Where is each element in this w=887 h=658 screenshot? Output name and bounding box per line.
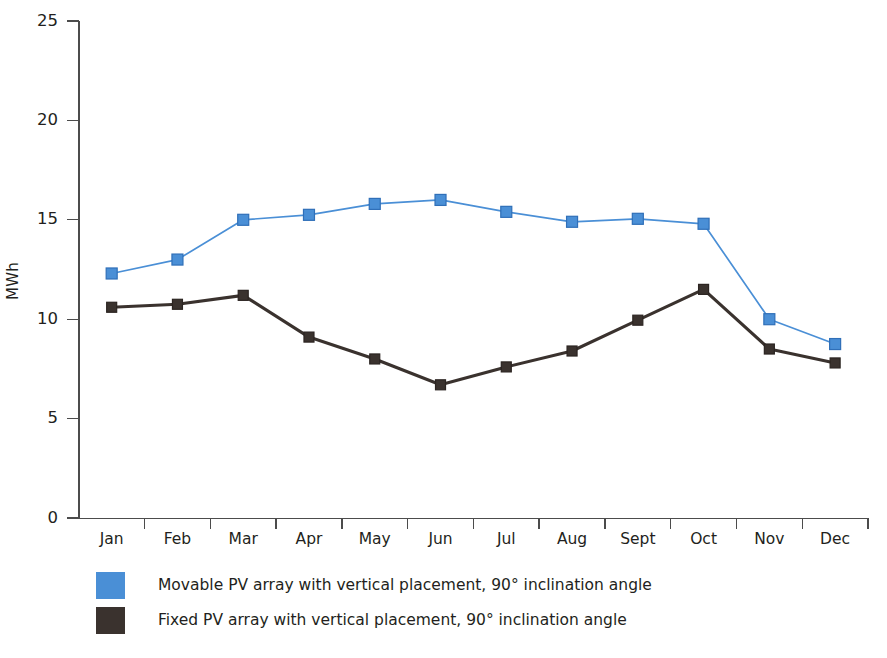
data-point-movable-jul (501, 206, 512, 217)
x-tick-label-jul: Jul (497, 532, 516, 548)
legend-label-movable: Movable PV array with vertical placement… (158, 578, 652, 594)
y-tick-label-15: 15 (12, 211, 58, 228)
series-line-movable (112, 200, 835, 344)
data-point-movable-sept (632, 213, 643, 224)
legend-swatch-fixed-icon (96, 607, 125, 634)
x-tick-boundary-9 (670, 518, 671, 529)
data-point-fixed-apr (304, 332, 314, 342)
x-tick-boundary-10 (736, 518, 737, 529)
x-tick-boundary-8 (604, 518, 605, 529)
x-tick-label-apr: Apr (296, 532, 323, 548)
legend-label-fixed: Fixed PV array with vertical placement, … (158, 613, 627, 629)
data-point-fixed-jan (107, 302, 117, 312)
x-tick-label-oct: Oct (690, 532, 717, 548)
data-point-movable-feb (172, 254, 183, 265)
x-tick-boundary-11 (802, 518, 803, 529)
x-tick-label-may: May (359, 532, 391, 548)
data-point-movable-apr (303, 209, 314, 220)
x-tick-label-nov: Nov (754, 532, 784, 548)
data-point-fixed-sept (633, 315, 643, 325)
data-point-fixed-oct (699, 284, 709, 294)
data-point-movable-dec (830, 339, 841, 350)
series-plot-layer (0, 0, 887, 658)
x-tick-label-sept: Sept (620, 532, 655, 548)
x-tick-boundary-12 (867, 518, 868, 529)
y-tick-label-10: 10 (12, 311, 58, 328)
x-tick-boundary-4 (341, 518, 342, 529)
data-point-fixed-may (370, 354, 380, 364)
x-tick-boundary-5 (407, 518, 408, 529)
series-line-fixed (112, 289, 835, 384)
data-point-movable-aug (567, 216, 578, 227)
x-tick-boundary-6 (473, 518, 474, 529)
data-point-movable-may (369, 198, 380, 209)
x-tick-boundary-1 (144, 518, 145, 529)
y-tick-label-25: 25 (12, 13, 58, 30)
y-tick-label-20: 20 (12, 112, 58, 129)
y-tick-0 (67, 517, 79, 518)
y-tick-label-5: 5 (12, 410, 58, 427)
legend-item-fixed: Fixed PV array with vertical placement, … (96, 603, 652, 638)
y-tick-label-0: 0 (12, 510, 58, 527)
x-tick-label-aug: Aug (557, 532, 587, 548)
data-point-movable-mar (238, 214, 249, 225)
x-tick-boundary-2 (210, 518, 211, 529)
y-tick-25 (67, 20, 79, 21)
y-tick-10 (67, 319, 79, 320)
x-tick-boundary-7 (538, 518, 539, 529)
chart-legend: Movable PV array with vertical placement… (96, 568, 652, 638)
data-point-fixed-aug (567, 346, 577, 356)
data-point-movable-oct (698, 218, 709, 229)
x-tick-label-jan: Jan (100, 532, 124, 548)
data-point-fixed-mar (238, 290, 248, 300)
x-tick-label-dec: Dec (820, 532, 850, 548)
data-point-movable-nov (764, 314, 775, 325)
y-tick-20 (67, 120, 79, 121)
data-point-fixed-nov (764, 344, 774, 354)
x-tick-label-mar: Mar (229, 532, 258, 548)
data-point-fixed-feb (172, 299, 182, 309)
data-point-movable-jun (435, 194, 446, 205)
y-tick-15 (67, 219, 79, 220)
y-axis-title: MWh (4, 262, 22, 300)
x-tick-label-feb: Feb (164, 532, 191, 548)
chart-figure: MWh 0510152025 JanFebMarAprMayJunJulAugS… (0, 0, 887, 658)
legend-item-movable: Movable PV array with vertical placement… (96, 568, 652, 603)
data-point-movable-jan (106, 268, 117, 279)
x-tick-label-jun: Jun (428, 532, 452, 548)
legend-swatch-movable-icon (96, 572, 125, 599)
data-point-fixed-dec (830, 358, 840, 368)
data-point-fixed-jul (501, 362, 511, 372)
data-point-fixed-jun (436, 380, 446, 390)
y-tick-5 (67, 418, 79, 419)
x-tick-boundary-3 (275, 518, 276, 529)
y-axis-line (78, 21, 80, 519)
